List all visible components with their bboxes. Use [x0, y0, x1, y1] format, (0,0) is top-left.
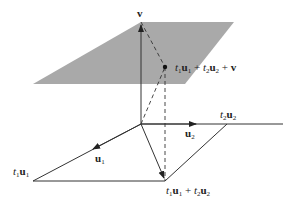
plane-diagram: v t1u1 + t2u2 + v t2u2 u2 u1 t1u1 t1u1 +… — [0, 0, 299, 202]
sum-vector — [141, 124, 164, 178]
label-t2u2: t2u2 — [220, 108, 237, 122]
label-u2: u2 — [185, 127, 195, 141]
label-u1: u1 — [95, 152, 105, 166]
label-sum: t1u1 + t2u2 — [166, 184, 211, 198]
label-v: v — [137, 7, 143, 19]
u1-vector — [93, 124, 141, 149]
t2u2-to-sum-edge — [165, 124, 227, 181]
label-t1u1: t1u1 — [13, 165, 30, 179]
translated-plane — [33, 22, 234, 84]
point-p — [163, 65, 167, 69]
label-point-p: t1u1 + t2u2 + v — [175, 61, 237, 75]
